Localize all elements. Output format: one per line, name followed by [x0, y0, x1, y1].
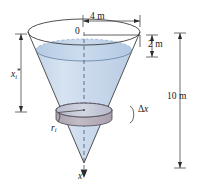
label-total-height: 10 m [167, 92, 186, 102]
label-sample-point: xi* [11, 68, 21, 80]
label-disk-radius: ri [51, 124, 57, 134]
disk-center-dot [83, 109, 85, 111]
sample-point-star: * [17, 67, 21, 76]
radius-subscript: i [55, 126, 57, 133]
label-top-width: 4 m [90, 12, 105, 22]
representative-disk [56, 103, 112, 126]
label-axis: x [78, 172, 82, 182]
thickness-brace [130, 106, 134, 123]
label-thickness: Δx [138, 105, 148, 115]
thickness-variable: x [144, 104, 148, 114]
label-origin: 0 [75, 27, 80, 37]
conical-tank-diagram: 4 m 2 m 10 m 0 xi* Δx ri x [0, 0, 201, 190]
label-top-gap: 2 m [148, 40, 163, 50]
